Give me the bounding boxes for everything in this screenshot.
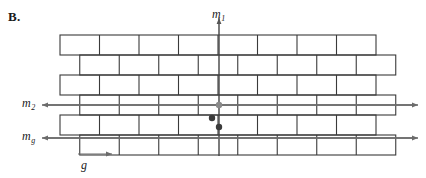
brick-row	[80, 55, 396, 75]
two-fold-offset-dark	[209, 115, 215, 121]
two-fold-center-gray	[216, 102, 222, 108]
wall-bricks	[60, 35, 396, 155]
brick-row	[60, 35, 376, 55]
rotation-points	[209, 102, 222, 130]
two-fold-axis-dark	[216, 124, 222, 130]
brick-row	[60, 75, 376, 95]
brick-wall-diagram	[0, 0, 426, 178]
